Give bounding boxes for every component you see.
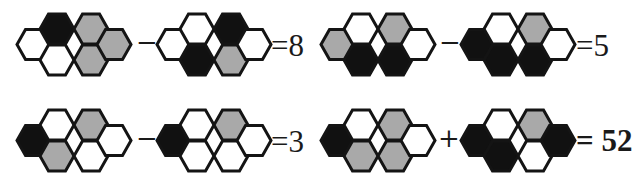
hex-cluster (460, 13, 576, 77)
hex-cluster-graphic (460, 109, 576, 173)
equation-result: =8 (271, 30, 304, 61)
hexagon-right-white (401, 30, 435, 60)
hex-cluster (320, 109, 436, 173)
hexagon-right-black (541, 126, 575, 156)
hexagon-bottom-center-left-gray (40, 141, 74, 171)
hex-cluster-graphic (460, 13, 576, 77)
hexagon-bottom-center-left-black (180, 45, 214, 75)
hex-cluster-graphic (156, 109, 272, 173)
hexagon-top-center-left-white (344, 14, 378, 44)
equation-result: =5 (576, 30, 609, 61)
hex-cluster (320, 13, 436, 77)
minus-sign: − (439, 29, 461, 55)
hexagon-top-center-left-white (484, 14, 518, 44)
hexagon-bottom-center-left-white (40, 45, 74, 75)
hexagon-top-center-left-white (40, 110, 74, 140)
minus-sign: − (136, 125, 158, 151)
hexagon-right-white (237, 30, 271, 60)
hex-cluster (16, 109, 132, 173)
equation-result: =3 (271, 126, 304, 157)
hexagon-right-white (541, 30, 575, 60)
hex-cluster-graphic (320, 109, 436, 173)
hex-cluster-graphic (156, 13, 272, 77)
hexagon-right-white (97, 126, 131, 156)
hexagon-bottom-center-left-black (484, 141, 518, 171)
hexagon-top-center-left-white (180, 14, 214, 44)
hexagon-right-white (401, 126, 435, 156)
hex-cluster (16, 13, 132, 77)
puzzle-stage: − =8 − =5 − =3 + = 52 (0, 0, 641, 182)
hexagon-top-center-left-white (484, 110, 518, 140)
hex-cluster-graphic (16, 109, 132, 173)
plus-sign: + (438, 125, 460, 151)
hexagon-right-gray (97, 30, 131, 60)
minus-sign: − (136, 29, 158, 55)
hex-cluster (460, 109, 576, 173)
hex-cluster-graphic (320, 13, 436, 77)
equation-result: = 52 (576, 125, 632, 156)
hexagon-bottom-center-left-gray (344, 141, 378, 171)
hexagon-bottom-center-left-black (484, 45, 518, 75)
hexagon-bottom-center-left-white (180, 141, 214, 171)
hexagon-bottom-center-left-black (344, 45, 378, 75)
hexagon-right-white (237, 126, 271, 156)
hex-cluster-graphic (16, 13, 132, 77)
hex-cluster (156, 13, 272, 77)
hexagon-top-center-left-white (344, 110, 378, 140)
hexagon-top-center-left-black (40, 14, 74, 44)
hexagon-top-center-left-white (180, 110, 214, 140)
hex-cluster (156, 109, 272, 173)
